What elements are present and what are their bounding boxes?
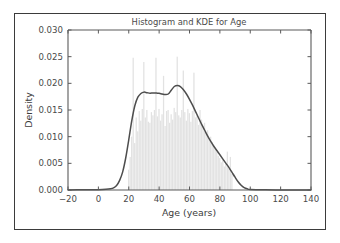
histogram-bar — [130, 157, 131, 190]
histogram-bar — [216, 152, 217, 190]
histogram-bar — [175, 112, 176, 190]
histogram-bar — [166, 111, 167, 190]
x-tick-label: 80 — [214, 194, 225, 204]
histogram-bar — [148, 122, 149, 190]
histogram-bar — [142, 109, 143, 190]
histogram-bar — [137, 131, 138, 190]
histogram-bar — [140, 121, 141, 190]
histogram-bar — [181, 110, 182, 190]
histogram-bar — [149, 123, 150, 190]
histogram-bar — [136, 117, 137, 190]
x-tick-label: 40 — [154, 194, 165, 204]
y-axis-label: Density — [23, 92, 34, 128]
histogram-bar — [230, 157, 231, 190]
histogram-bar — [204, 123, 205, 190]
y-tick-label: 0.025 — [38, 52, 63, 62]
y-tick-label: 0.010 — [38, 132, 63, 142]
histogram-bar — [178, 115, 179, 190]
x-tick-label: −20 — [59, 194, 77, 204]
histogram-bar — [219, 158, 220, 190]
histogram-bar — [154, 110, 155, 190]
x-axis-label: Age (years) — [162, 207, 216, 218]
histogram-bar — [222, 160, 223, 190]
histogram-bar — [160, 121, 161, 190]
x-tick-label: 100 — [242, 194, 258, 204]
x-tick-label: 120 — [272, 194, 288, 204]
histogram-bar — [225, 164, 226, 190]
histogram-bar — [169, 123, 170, 190]
histogram-bar — [208, 139, 209, 190]
histogram-bar — [192, 111, 193, 190]
y-axis-tick-labels: 0.0000.0050.0100.0150.0200.0250.030 — [38, 25, 63, 195]
histogram-bar — [174, 108, 175, 190]
figure-root: −20020406080100120140 0.0000.0050.0100.0… — [0, 0, 340, 243]
histogram-bar — [201, 120, 202, 190]
histogram-bar — [190, 122, 191, 190]
histogram-bar — [133, 58, 134, 190]
histogram-bar — [145, 117, 146, 190]
histogram-bar — [231, 174, 232, 190]
histogram-bar — [221, 162, 222, 190]
histogram-bar — [152, 115, 153, 190]
histogram-bar — [158, 109, 159, 190]
histogram-bar — [155, 58, 156, 190]
histogram-bar — [146, 110, 147, 190]
histogram-bar — [218, 156, 219, 190]
histogram-bar — [215, 148, 216, 190]
y-tick-label: 0.030 — [38, 25, 63, 35]
x-tick-label: 20 — [123, 194, 134, 204]
histogram-bar — [210, 137, 211, 190]
histogram-bar — [167, 110, 168, 190]
histogram-bar — [227, 152, 228, 190]
histogram-bar — [228, 169, 229, 190]
histogram-bar — [184, 112, 185, 190]
y-tick-label: 0.000 — [38, 185, 63, 195]
histogram-bar — [195, 117, 196, 190]
histogram-bar — [186, 121, 187, 190]
chart-title: Histogram and KDE for Age — [132, 17, 247, 27]
histogram-bar — [205, 133, 206, 190]
histogram-bar — [196, 115, 197, 190]
histogram-bar — [193, 73, 194, 190]
histogram-bars — [128, 57, 233, 190]
histogram-bar — [177, 57, 178, 190]
histogram-bar — [187, 109, 188, 190]
x-axis-tick-labels: −20020406080100120140 — [59, 194, 319, 204]
histogram-bar — [157, 116, 158, 190]
histogram-bar — [213, 145, 214, 190]
y-tick-label: 0.020 — [38, 78, 63, 88]
histogram-bar — [131, 137, 132, 190]
histogram-bar — [207, 130, 208, 190]
x-tick-label: 60 — [184, 194, 195, 204]
histogram-bar — [171, 114, 172, 190]
histogram-bar — [139, 111, 140, 190]
histogram-bar — [172, 120, 173, 190]
histogram-bar — [164, 126, 165, 190]
histogram-bar — [143, 62, 144, 190]
histogram-bar — [212, 142, 213, 190]
histogram-bar — [151, 112, 152, 190]
x-tick-label: 0 — [96, 194, 101, 204]
histogram-bar — [180, 117, 181, 190]
y-tick-label: 0.005 — [38, 158, 63, 168]
histogram-bar — [161, 114, 162, 190]
histogram-bar — [202, 126, 203, 190]
histogram-bar — [189, 113, 190, 190]
histogram-bar — [163, 76, 164, 190]
histogram-bar — [134, 143, 135, 190]
chart-canvas: −20020406080100120140 0.0000.0050.0100.0… — [0, 0, 340, 243]
y-tick-label: 0.015 — [38, 105, 63, 115]
histogram-bar — [224, 167, 225, 190]
histogram-bar — [198, 125, 199, 190]
x-tick-label: 140 — [303, 194, 319, 204]
